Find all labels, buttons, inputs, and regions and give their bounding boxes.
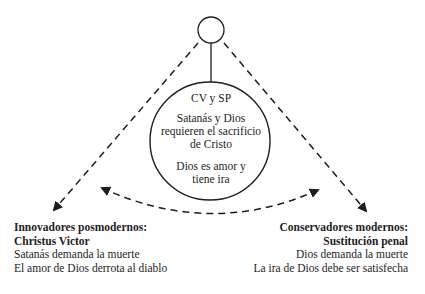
center-node-block-1: Satanás y Dios requieren el sacrificio d…: [150, 112, 272, 151]
right-node-body-line: La ira de Dios debe ser satisfecha: [253, 262, 408, 276]
right-node-subtitle: Sustitución penal: [253, 235, 408, 249]
top-node-circle: [198, 17, 224, 43]
center-node-line: Satanás y Dios: [150, 112, 272, 125]
center-node-text: CV y SP Satanás y Dios requieren el sacr…: [150, 92, 272, 186]
right-node-label: Conservadores modernos: Sustitución pena…: [253, 221, 408, 275]
left-node-title: Innovadores posmodernos:: [14, 221, 167, 235]
left-node-label: Innovadores posmodernos: Christus Victor…: [14, 221, 167, 275]
left-node-body-line: Satanás demanda la muerte: [14, 248, 167, 262]
right-node-body-line: Dios demanda la muerte: [253, 248, 408, 262]
center-node-line: Dios es amor y: [150, 160, 272, 173]
left-node-subtitle: Christus Victor: [14, 235, 167, 249]
center-node-heading: CV y SP: [150, 92, 272, 105]
left-node-body-line: El amor de Dios derrota al diablo: [14, 262, 167, 276]
center-node-block-2: Dios es amor y tiene ira: [150, 160, 272, 186]
center-node-line: requieren el sacrificio: [150, 125, 272, 138]
bidirectional-curved-dashed-arrow: [102, 188, 318, 214]
center-node-line: tiene ira: [150, 173, 272, 186]
right-node-title: Conservadores modernos:: [253, 221, 408, 235]
center-node-line: de Cristo: [150, 138, 272, 151]
